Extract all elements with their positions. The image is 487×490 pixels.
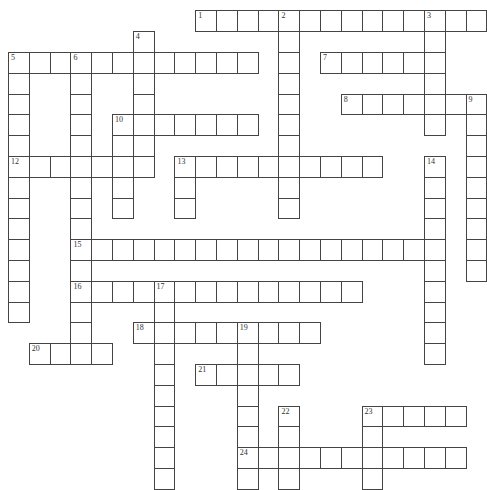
crossword-cell[interactable] (424, 281, 446, 303)
crossword-cell[interactable] (91, 343, 113, 365)
crossword-cell[interactable] (424, 31, 446, 53)
crossword-cell[interactable] (424, 73, 446, 95)
crossword-cell[interactable] (341, 10, 363, 32)
crossword-cell[interactable] (278, 468, 300, 490)
crossword-cell[interactable] (403, 94, 425, 116)
crossword-cell[interactable] (258, 322, 280, 344)
crossword-cell[interactable] (50, 156, 72, 178)
crossword-cell[interactable] (154, 426, 176, 448)
crossword-cell[interactable] (91, 281, 113, 303)
crossword-cell[interactable] (112, 281, 134, 303)
crossword-cell[interactable] (424, 260, 446, 282)
crossword-cell[interactable] (299, 322, 321, 344)
crossword-cell[interactable] (8, 260, 30, 282)
crossword-cell[interactable] (216, 364, 238, 386)
crossword-cell[interactable] (258, 364, 280, 386)
crossword-cell[interactable] (278, 447, 300, 469)
crossword-cell[interactable] (237, 426, 259, 448)
crossword-cell[interactable] (320, 281, 342, 303)
crossword-cell[interactable] (70, 322, 92, 344)
crossword-cell[interactable] (112, 156, 134, 178)
crossword-cell[interactable] (362, 52, 384, 74)
crossword-cell[interactable] (133, 73, 155, 95)
crossword-cell[interactable] (237, 364, 259, 386)
crossword-cell[interactable] (424, 447, 446, 469)
crossword-cell[interactable] (154, 468, 176, 490)
crossword-cell[interactable] (91, 239, 113, 261)
crossword-cell[interactable] (70, 73, 92, 95)
crossword-cell[interactable] (70, 198, 92, 220)
crossword-cell[interactable] (91, 52, 113, 74)
crossword-cell[interactable] (216, 322, 238, 344)
crossword-cell[interactable] (278, 364, 300, 386)
crossword-cell[interactable] (174, 177, 196, 199)
crossword-cell[interactable] (258, 281, 280, 303)
crossword-cell[interactable] (258, 156, 280, 178)
crossword-cell[interactable] (424, 94, 446, 116)
crossword-cell[interactable] (8, 281, 30, 303)
crossword-cell[interactable] (424, 198, 446, 220)
crossword-cell[interactable] (50, 52, 72, 74)
crossword-cell[interactable] (133, 94, 155, 116)
crossword-cell[interactable] (50, 343, 72, 365)
crossword-cell[interactable] (216, 10, 238, 32)
crossword-cell[interactable]: 14 (424, 156, 446, 178)
crossword-cell[interactable] (258, 447, 280, 469)
crossword-cell[interactable]: 23 (362, 406, 384, 428)
crossword-cell[interactable] (362, 239, 384, 261)
crossword-cell[interactable] (216, 156, 238, 178)
crossword-cell[interactable] (445, 10, 467, 32)
crossword-cell[interactable] (8, 198, 30, 220)
crossword-cell[interactable] (466, 239, 487, 261)
crossword-cell[interactable] (70, 156, 92, 178)
crossword-cell[interactable]: 12 (8, 156, 30, 178)
crossword-cell[interactable] (70, 302, 92, 324)
crossword-cell[interactable] (362, 468, 384, 490)
crossword-cell[interactable] (278, 198, 300, 220)
crossword-cell[interactable] (237, 239, 259, 261)
crossword-cell[interactable] (237, 156, 259, 178)
crossword-cell[interactable]: 9 (466, 94, 487, 116)
crossword-cell[interactable]: 15 (70, 239, 92, 261)
crossword-cell[interactable] (382, 10, 404, 32)
crossword-cell[interactable] (278, 52, 300, 74)
crossword-cell[interactable] (154, 114, 176, 136)
crossword-cell[interactable] (341, 239, 363, 261)
crossword-cell[interactable] (320, 239, 342, 261)
crossword-cell[interactable] (424, 177, 446, 199)
crossword-cell[interactable] (112, 177, 134, 199)
crossword-cell[interactable] (70, 343, 92, 365)
crossword-cell[interactable] (216, 52, 238, 74)
crossword-cell[interactable] (320, 156, 342, 178)
crossword-cell[interactable] (466, 198, 487, 220)
crossword-cell[interactable] (445, 406, 467, 428)
crossword-cell[interactable] (466, 114, 487, 136)
crossword-cell[interactable] (278, 239, 300, 261)
crossword-cell[interactable] (133, 52, 155, 74)
crossword-cell[interactable] (195, 156, 217, 178)
crossword-cell[interactable] (70, 135, 92, 157)
crossword-cell[interactable] (29, 52, 51, 74)
crossword-cell[interactable] (278, 281, 300, 303)
crossword-cell[interactable]: 4 (133, 31, 155, 53)
crossword-cell[interactable] (278, 94, 300, 116)
crossword-cell[interactable] (299, 447, 321, 469)
crossword-cell[interactable] (216, 239, 238, 261)
crossword-cell[interactable] (362, 156, 384, 178)
crossword-cell[interactable] (278, 73, 300, 95)
crossword-cell[interactable] (154, 52, 176, 74)
crossword-cell[interactable]: 24 (237, 447, 259, 469)
crossword-cell[interactable] (237, 468, 259, 490)
crossword-cell[interactable] (237, 10, 259, 32)
crossword-cell[interactable] (133, 281, 155, 303)
crossword-cell[interactable]: 22 (278, 406, 300, 428)
crossword-cell[interactable]: 2 (278, 10, 300, 32)
crossword-cell[interactable] (424, 218, 446, 240)
crossword-cell[interactable] (154, 385, 176, 407)
crossword-cell[interactable] (133, 135, 155, 157)
crossword-cell[interactable] (382, 239, 404, 261)
crossword-cell[interactable] (154, 447, 176, 469)
crossword-cell[interactable] (299, 10, 321, 32)
crossword-cell[interactable] (70, 94, 92, 116)
crossword-cell[interactable] (299, 239, 321, 261)
